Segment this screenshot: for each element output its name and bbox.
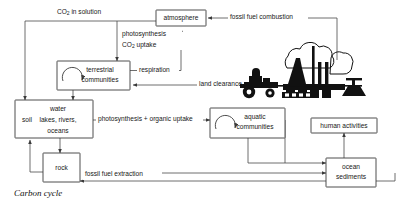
flow-label-fossil-fuel-combustion: fossil fuel combustion [228,12,308,23]
flow-label-photosynthesis-co2-uptake: photosynthesis CO2 uptake [120,28,182,50]
node-terrestrial-communities[interactable]: terrestrial communities [57,61,130,90]
flow-label-extraction-text: fossil fuel extraction [85,170,143,177]
node-soil-water[interactable]: soil water lakes, rivers, oceans [15,100,93,138]
node-terrestrial-label-line2: communities [81,76,119,83]
node-water-label-line1: water [49,105,67,112]
node-soil-label: soil [22,116,32,123]
flow-label-land-clearance-text: land clearance [199,80,242,87]
node-aquatic-label-line2: communities [236,123,274,130]
node-ocean-sediments-label-line2: sediments [336,173,367,180]
node-aquatic-communities[interactable]: aquatic communities [210,108,285,138]
svg-text:CO2 in solution: CO2 in solution [57,7,102,15]
industrial-factory-illustration [240,42,366,98]
node-atmosphere[interactable]: atmosphere [156,10,206,26]
node-ocean-sediments[interactable]: ocean sediments [326,158,376,187]
node-rock[interactable]: rock [43,153,80,182]
flow-label-respiration-text: respiration [139,66,170,74]
flow-aquatic-to-sediments [248,138,326,163]
flow-rock-to-soil [30,140,43,172]
caption: Carbon cycle [14,188,62,198]
node-rock-label: rock [55,164,68,171]
caption-text: Carbon cycle [14,188,62,198]
node-human-activities-label: human activities [320,122,368,129]
flow-label-combustion-text: fossil fuel combustion [230,13,293,20]
node-water-label-line2: lakes, rivers, [39,116,76,123]
carbon-cycle-diagram: atmosphere terrestrial communities soil … [0,0,407,205]
flow-label-respiration: respiration [137,65,179,76]
node-atmosphere-label: atmosphere [164,14,199,22]
flow-label-photo-organic-text: photosynthesis + organic uptake [98,115,193,123]
node-terrestrial-label-line1: terrestrial [86,66,114,73]
node-aquatic-label-line1: aquatic [244,113,266,121]
node-human-activities[interactable]: human activities [311,118,377,133]
flow-label-photosynthesis-line1: photosynthesis [122,30,167,38]
node-water-label-line3: oceans [47,127,69,134]
flow-label-fossil-fuel-extraction: fossil fuel extraction [83,169,162,180]
flow-fossil-fuel-combustion [208,18,337,60]
svg-text:CO2 uptake: CO2 uptake [122,41,157,49]
flow-label-co2-in-solution: CO2 in solution [44,6,114,17]
flow-label-photosynthesis-organic-uptake: photosynthesis + organic uptake [96,114,203,125]
node-ocean-sediments-label-line1: ocean [342,163,360,170]
